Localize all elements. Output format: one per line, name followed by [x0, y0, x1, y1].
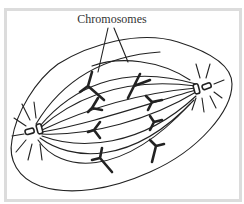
chromosome — [88, 98, 102, 112]
spindle-fibers — [36, 52, 196, 163]
chromosome — [150, 140, 164, 162]
right-centrosome-2 — [202, 82, 212, 90]
cell-division-diagram — [0, 0, 244, 204]
chromosome — [88, 122, 100, 138]
centrosomes — [25, 82, 212, 135]
chromosomes-label: Chromosomes — [0, 12, 224, 27]
left-centrosome-1 — [25, 128, 35, 135]
left-centrosome-2 — [36, 123, 43, 134]
